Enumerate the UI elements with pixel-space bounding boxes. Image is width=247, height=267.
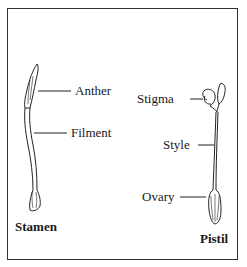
anther-label: Anther xyxy=(75,84,111,98)
stamen-title: Stamen xyxy=(15,220,57,234)
pistil-title: Pistil xyxy=(200,232,228,246)
filament-drawing xyxy=(25,108,41,211)
ovary-drawing xyxy=(209,190,221,224)
style-drawing xyxy=(213,112,218,190)
ovary-label: Ovary xyxy=(142,190,175,204)
stigma-drawing xyxy=(203,83,225,112)
anther-drawing xyxy=(25,64,38,108)
style-label: Style xyxy=(163,138,190,152)
stigma-label: Stigma xyxy=(137,92,174,106)
filament-label: Filment xyxy=(71,126,111,140)
